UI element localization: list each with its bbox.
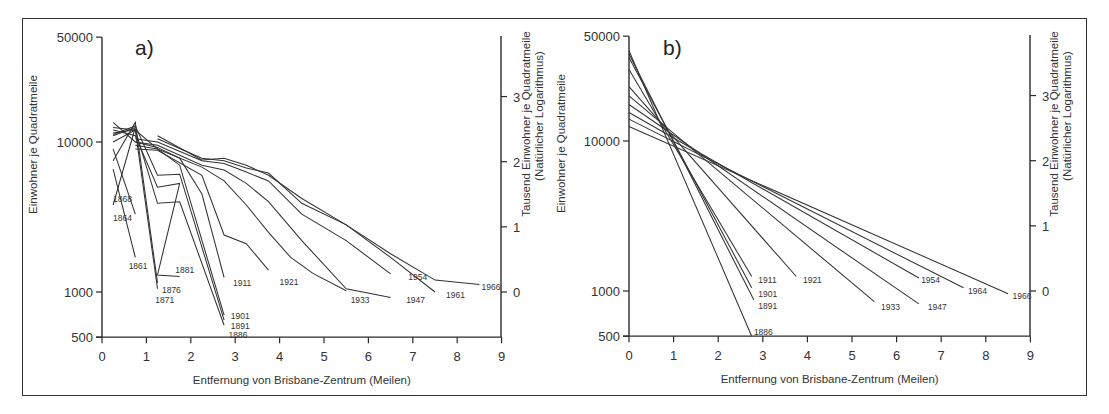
panel-title: b) — [663, 36, 682, 59]
y-tick-label-right: 0 — [1042, 284, 1049, 299]
x-tick-label: 6 — [893, 348, 900, 363]
y-tick-label: 500 — [71, 330, 93, 345]
series-label-1901: 1901 — [758, 289, 777, 299]
series-label-1954: 1954 — [921, 275, 940, 285]
series-label-1966: 1966 — [482, 282, 501, 292]
x-tick-label: 5 — [320, 349, 327, 364]
series-label-1861: 1861 — [129, 261, 148, 271]
series-line-1921 — [629, 87, 796, 277]
panel-title: a) — [135, 36, 154, 59]
x-tick-label: 7 — [938, 348, 945, 363]
series-label-1881: 1881 — [175, 265, 194, 275]
y-tick-label-right: 0 — [513, 285, 520, 300]
series-line-1964 — [629, 119, 964, 288]
series-label-1871: 1871 — [155, 295, 174, 305]
y-tick-label-right: 1 — [1042, 219, 1049, 234]
x-tick-label: 8 — [982, 348, 989, 363]
x-tick-label: 1 — [670, 348, 677, 363]
y-tick-label: 1000 — [64, 285, 93, 300]
series-line-1933 — [629, 96, 874, 302]
x-axis-title: Entfernung von Brisbane-Zentrum (Meilen) — [721, 373, 939, 385]
series-line-1947 — [135, 142, 390, 297]
series-label-1864: 1864 — [113, 213, 132, 223]
x-axis-title: Entfernung von Brisbane-Zentrum (Meilen) — [193, 374, 411, 386]
series-label-1876: 1876 — [162, 285, 181, 295]
x-tick-label: 0 — [98, 349, 105, 364]
x-tick-label: 9 — [1027, 348, 1034, 363]
x-tick-label: 4 — [276, 349, 283, 364]
x-tick-label: 3 — [232, 349, 239, 364]
y-tick-label: 50000 — [584, 29, 620, 44]
y-tick-label: 500 — [598, 329, 620, 344]
y-tick-label-right: 1 — [513, 220, 520, 235]
y-tick-label: 10000 — [584, 134, 620, 149]
series-label-1891: 1891 — [758, 301, 777, 311]
x-tick-label: 2 — [715, 348, 722, 363]
y-tick-label: 50000 — [57, 30, 93, 45]
y-axis-title-right: Tausend Einwohner je Quadratmeile — [520, 31, 532, 216]
series-line-1961 — [158, 139, 436, 292]
series-label-1901: 1901 — [231, 311, 250, 321]
series-line-1954 — [629, 113, 919, 279]
series-label-1966: 1966 — [1013, 291, 1032, 301]
series-label-1961: 1961 — [446, 290, 465, 300]
series-label-1868: 1868 — [113, 194, 132, 204]
series-line-1966 — [629, 127, 1008, 294]
y-axis-title-right-sub: (Natürlicher Logarithmus) — [533, 51, 545, 181]
x-tick-label: 2 — [187, 349, 194, 364]
chart-a: a)500001000010005000123456789Entfernung … — [23, 19, 558, 397]
series-label-1947: 1947 — [928, 302, 947, 312]
y-axis-title-left: Einwohner je Quadratmeile — [555, 74, 567, 213]
x-tick-label: 3 — [759, 348, 766, 363]
series-label-1911: 1911 — [233, 278, 252, 288]
series-label-1891: 1891 — [231, 321, 250, 331]
series-label-1921: 1921 — [803, 275, 822, 285]
x-tick-label: 4 — [804, 348, 811, 363]
series-label-1921: 1921 — [280, 277, 299, 287]
x-tick-label: 8 — [454, 349, 461, 364]
chart-b: b)500001000010005000123456789Entfernung … — [553, 19, 1087, 397]
x-tick-label: 6 — [365, 349, 372, 364]
series-line-1933 — [135, 145, 346, 290]
y-axis-title-left: Einwohner je Quadratmeile — [27, 75, 39, 214]
x-tick-label: 7 — [409, 349, 416, 364]
series-label-1933: 1933 — [881, 302, 900, 312]
series-label-1947: 1947 — [406, 295, 425, 305]
series-line-1886 — [629, 51, 752, 337]
y-axis-title-right-sub: (Natürlicher Logarithmus) — [1061, 51, 1073, 181]
series-label-1933: 1933 — [351, 295, 370, 305]
series-label-1964: 1964 — [968, 286, 987, 296]
series-label-1886: 1886 — [754, 327, 773, 337]
y-tick-label: 1000 — [591, 284, 620, 299]
series-label-1911: 1911 — [758, 275, 777, 285]
x-tick-label: 0 — [625, 348, 632, 363]
y-tick-label: 10000 — [57, 135, 93, 150]
panel-b: b)500001000010005000123456789Entfernung … — [553, 18, 1087, 396]
x-tick-label: 5 — [848, 348, 855, 363]
x-tick-label: 1 — [143, 349, 150, 364]
panel-a: a)500001000010005000123456789Entfernung … — [22, 18, 557, 396]
y-axis-title-right: Tausend Einwohner je Quadratmeile — [1048, 31, 1060, 216]
x-tick-label: 9 — [498, 349, 505, 364]
